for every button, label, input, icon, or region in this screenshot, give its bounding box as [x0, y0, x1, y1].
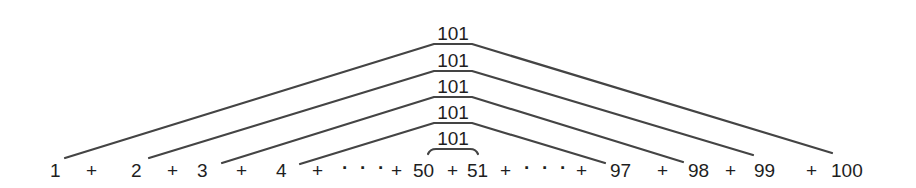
plus-sign: +: [86, 160, 97, 181]
plus-sign: +: [576, 160, 587, 181]
ellipsis-dot: ·: [342, 157, 348, 178]
plus-sign: +: [500, 160, 511, 181]
sequence-term: 4: [276, 160, 287, 181]
plus-sign: +: [447, 160, 458, 181]
pair-sum-labels: 101 101 101 101 101: [437, 23, 469, 149]
sequence-term: 51: [467, 160, 488, 181]
ellipsis-dot: ·: [560, 157, 566, 178]
plus-sign: +: [167, 160, 178, 181]
gauss-sum-diagram: 101 101 101 101 101 1+2+3+4+···+50+51+··…: [0, 0, 916, 188]
plus-sign: +: [806, 160, 817, 181]
plus-sign: +: [657, 160, 668, 181]
plus-sign: +: [725, 160, 736, 181]
ellipsis-dot: ·: [378, 157, 384, 178]
plus-sign: +: [312, 160, 323, 181]
sequence-term: 99: [754, 160, 775, 181]
ellipsis-dot: ·: [524, 157, 530, 178]
plus-sign: +: [391, 160, 402, 181]
pair-sum-label: 101: [437, 23, 469, 44]
sequence-term: 1: [50, 160, 61, 181]
sequence-term: 98: [688, 160, 709, 181]
sequence-term: 2: [131, 160, 142, 181]
sequence-term: 50: [413, 160, 434, 181]
plus-sign: +: [236, 160, 247, 181]
sequence-term: 97: [610, 160, 631, 181]
pair-sum-label: 101: [437, 76, 469, 97]
sequence-term: 100: [831, 160, 863, 181]
pair-sum-label: 101: [437, 50, 469, 71]
sequence-term: 3: [197, 160, 208, 181]
ellipsis-dot: ·: [542, 157, 548, 178]
bracket-50-51: [428, 149, 478, 154]
sequence-terms: 1+2+3+4+···+50+51+···+97+98+99+100: [50, 157, 863, 181]
ellipsis-dot: ·: [360, 157, 366, 178]
pair-sum-label: 101: [437, 102, 469, 123]
pair-sum-label: 101: [437, 128, 469, 149]
